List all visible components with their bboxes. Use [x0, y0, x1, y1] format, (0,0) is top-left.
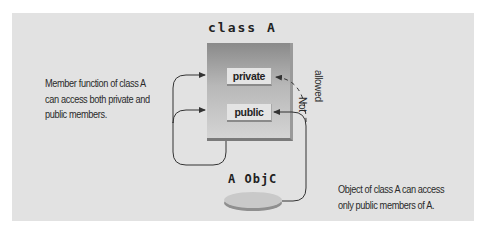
- note-line: only public members of A.: [338, 198, 467, 214]
- object-access-note: Object of class A can access only public…: [338, 182, 467, 213]
- object-label: A ObjC: [228, 172, 298, 186]
- note-line: Member function of class A: [45, 76, 165, 92]
- note-line: Object of class A can access: [338, 182, 467, 198]
- not-label: Not: [297, 97, 308, 112]
- allowed-label: allowed: [313, 70, 324, 102]
- member-function-note: Member function of class A can access bo…: [45, 76, 165, 123]
- member-function-connector: [173, 75, 226, 165]
- note-line: can access both private and: [45, 92, 165, 108]
- note-line: public members.: [45, 107, 165, 123]
- object-connector: [274, 112, 306, 201]
